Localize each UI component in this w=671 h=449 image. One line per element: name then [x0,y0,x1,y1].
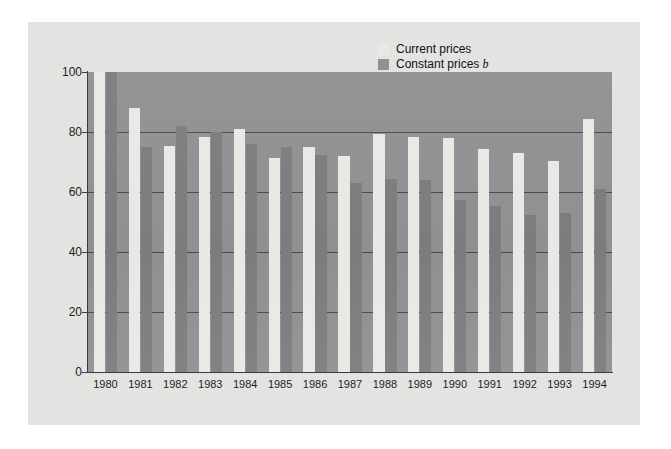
bar-group [303,72,326,372]
x-axis-tick-label: 1991 [472,379,507,390]
bar-constant-prices [211,132,222,372]
legend-item-label: Current prices [396,42,471,57]
chart-legend: Current pricesConstant pricesb [378,42,488,72]
y-axis-tick-mark [82,72,87,73]
y-axis-tick-mark [82,252,87,253]
bar-constant-prices [176,126,187,372]
y-axis-tick-mark [82,132,87,133]
bar-current-prices [129,108,140,372]
bar-constant-prices [141,147,152,372]
plot-area [88,72,612,372]
x-axis-line [87,372,613,373]
y-axis-tick-label: 20 [42,306,82,318]
x-axis-tick-label: 1989 [402,379,437,390]
bar-group [269,72,292,372]
bar-constant-prices [281,147,292,372]
legend-swatch-current-prices [378,44,389,55]
bar-current-prices [548,161,559,373]
bar-group [478,72,501,372]
x-axis-tick-label: 1987 [333,379,368,390]
bar-current-prices [443,138,454,372]
bar-current-prices [199,137,210,373]
y-axis-tick-mark [82,312,87,313]
x-axis-tick-label: 1988 [367,379,402,390]
bar-current-prices [373,134,384,373]
y-axis-tick-label: 60 [42,186,82,198]
bar-constant-prices [315,155,326,373]
bar-constant-prices [455,200,466,373]
bar-group [548,72,571,372]
x-axis-tick-label: 1980 [88,379,123,390]
x-axis-tick-label: 1981 [123,379,158,390]
bar-group [408,72,431,372]
x-axis-tick-label: 1984 [228,379,263,390]
bar-current-prices [94,72,105,372]
bar-group [199,72,222,372]
bar-constant-prices [246,144,257,372]
legend-swatch-constant-prices [378,59,389,70]
figure-panel: 020406080100 198019811982198319841985198… [28,22,640,425]
bar-current-prices [338,156,349,372]
y-axis-tick-label: 40 [42,246,82,258]
y-axis-tick-label: 100 [42,66,82,78]
bar-group [583,72,606,372]
bar-current-prices [269,158,280,373]
x-axis-tick-label: 1993 [542,379,577,390]
bar-current-prices [408,137,419,373]
bar-constant-prices [490,206,501,373]
bar-group [164,72,187,372]
bar-current-prices [583,119,594,373]
y-axis-line [87,71,88,373]
x-axis-tick-label: 1990 [437,379,472,390]
y-axis-tick-label: 80 [42,126,82,138]
bar-group [129,72,152,372]
bar-group [513,72,536,372]
legend-item: Constant pricesb [378,57,488,72]
y-axis-tick-label: 0 [42,366,82,378]
legend-footnote-marker: b [482,57,488,72]
bar-constant-prices [595,189,606,372]
bar-constant-prices [385,179,396,373]
bar-group [373,72,396,372]
bar-current-prices [303,147,314,372]
x-axis-tick-label: 1986 [298,379,333,390]
x-axis-tick-label: 1992 [507,379,542,390]
bar-current-prices [234,129,245,372]
bar-constant-prices [106,72,117,372]
x-axis-tick-label: 1982 [158,379,193,390]
y-axis-tick-mark [82,372,87,373]
x-axis-tick-label: 1994 [577,379,612,390]
x-axis-tick-label: 1985 [263,379,298,390]
x-axis-tick-label: 1983 [193,379,228,390]
bar-constant-prices [350,183,361,372]
y-axis-tick-mark [82,192,87,193]
bar-current-prices [164,146,175,373]
bar-constant-prices [525,215,536,373]
bar-constant-prices [560,213,571,372]
bar-current-prices [513,153,524,372]
bar-group [94,72,117,372]
bar-group [443,72,466,372]
bar-group [234,72,257,372]
legend-item-label: Constant prices [396,57,479,72]
legend-item: Current prices [378,42,488,57]
bar-group [338,72,361,372]
bar-current-prices [478,149,489,373]
bar-constant-prices [420,180,431,372]
